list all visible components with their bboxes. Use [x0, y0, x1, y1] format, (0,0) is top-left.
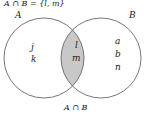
title: A ∩ B = {l, m}: [3, 0, 65, 8]
set-b-label: B: [128, 10, 136, 20]
set-b-element: b: [115, 49, 121, 59]
set-a-element: k: [31, 54, 36, 64]
venn-diagram: A ∩ B = {l, m} A B j k l m a b n A ∩ B: [0, 0, 144, 114]
intersection-element: l: [75, 40, 78, 50]
set-a-element: j: [29, 42, 34, 52]
set-b-element: n: [115, 62, 121, 72]
set-a-label: A: [14, 10, 22, 20]
set-b-element: a: [115, 36, 120, 46]
caption: A ∩ B: [63, 103, 88, 112]
intersection-element: m: [72, 53, 81, 63]
